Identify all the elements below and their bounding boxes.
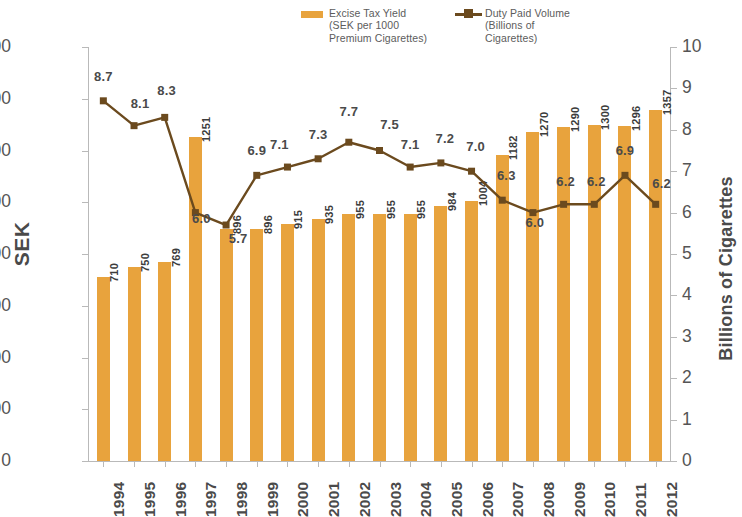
x-axis-tick-label: 2003	[387, 457, 405, 517]
y-axis-right-tick	[671, 420, 677, 421]
line-marker	[253, 172, 260, 179]
line-marker	[499, 197, 506, 204]
x-axis-tick	[441, 462, 442, 467]
legend-item-duty-paid-volume: Duty Paid Volume (Billions of Cigarettes…	[455, 7, 570, 44]
x-axis-tick	[195, 462, 196, 467]
line-point-value-label: 7.5	[373, 117, 407, 132]
x-axis-tick	[472, 462, 473, 467]
x-axis-tick-label: 2008	[540, 457, 558, 517]
x-axis-tick-label: 2006	[479, 457, 497, 517]
legend-item-label: Duty Paid Volume (Billions of Cigarettes…	[485, 7, 570, 44]
line-marker	[315, 155, 322, 162]
x-axis-tick	[410, 462, 411, 467]
line-marker	[284, 164, 291, 171]
x-axis-tick-label: 1995	[141, 457, 159, 517]
y-axis-right-tick	[671, 130, 677, 131]
legend-item-label: Excise Tax Yield (SEK per 1000 Premium C…	[329, 7, 427, 44]
y-axis-left-tick-label: 0	[0, 450, 11, 471]
x-axis-tick	[594, 462, 595, 467]
x-axis-tick	[502, 462, 503, 467]
x-axis-tick	[625, 462, 626, 467]
line-marker	[131, 122, 138, 129]
x-axis-tick	[656, 462, 657, 467]
y-axis-right-tick	[671, 337, 677, 338]
x-axis-tick	[287, 462, 288, 467]
x-axis-tick	[380, 462, 381, 467]
x-axis-tick	[349, 462, 350, 467]
x-axis-tick	[165, 462, 166, 467]
y-axis-left-tick-label: 1600	[0, 36, 11, 57]
y-axis-right-tick-label: 7	[682, 160, 712, 181]
x-axis-tick-label: 2000	[294, 457, 312, 517]
y-axis-right-tick-label: 4	[682, 284, 712, 305]
line-marker	[560, 201, 567, 208]
line-marker	[652, 201, 659, 208]
x-axis-tick	[103, 462, 104, 467]
x-axis-tick-label: 2004	[417, 457, 435, 517]
y-axis-left-tick-label: 1400	[0, 88, 11, 109]
y-axis-right-tick	[671, 254, 677, 255]
line-point-value-label: 8.7	[86, 69, 120, 84]
x-axis-tick	[318, 462, 319, 467]
line-point-value-label: 6.3	[489, 168, 523, 183]
line-point-value-label: 7.3	[301, 127, 335, 142]
x-axis-tick-label: 2012	[663, 457, 681, 517]
line-point-value-label: 6.2	[579, 174, 613, 189]
y-axis-right-tick-label: 1	[682, 409, 712, 430]
line-point-value-label: 6.2	[549, 174, 583, 189]
line-marker	[223, 222, 230, 229]
line-point-value-label: 7.7	[332, 104, 366, 119]
line-marker	[100, 97, 107, 104]
y-axis-left-title: SEK	[10, 204, 34, 284]
x-axis-tick	[134, 462, 135, 467]
line-marker	[376, 147, 383, 154]
legend-bar-swatch-icon	[299, 7, 329, 21]
chart-legend: Excise Tax Yield (SEK per 1000 Premium C…	[0, 0, 742, 46]
line-point-value-label: 6.0	[518, 215, 552, 230]
x-axis-tick-label: 2010	[601, 457, 619, 517]
line-point-value-label: 7.1	[393, 137, 427, 152]
legend-line-swatch-icon	[455, 7, 485, 21]
line-marker	[621, 172, 628, 179]
y-axis-left-tick-label: 600	[0, 295, 11, 316]
line-point-value-label: 7.1	[262, 137, 296, 152]
y-axis-right-tick	[671, 171, 677, 172]
line-point-value-label: 7.0	[459, 139, 493, 154]
line-point-value-label: 8.3	[150, 83, 184, 98]
x-axis-tick-label: 1996	[172, 457, 190, 517]
y-axis-right-tick-label: 9	[682, 77, 712, 98]
y-axis-left-tick-label: 1200	[0, 140, 11, 161]
y-axis-right-tick-label: 6	[682, 202, 712, 223]
line-point-value-label: 6.0	[184, 211, 218, 226]
y-axis-right-tick-label: 2	[682, 367, 712, 388]
line-point-value-label: 6.9	[608, 143, 642, 158]
y-axis-right-tick	[671, 378, 677, 379]
plot-area: 16001400120010008006004002000 1098765432…	[88, 47, 671, 462]
line-marker	[161, 114, 168, 121]
line-point-value-label: 7.2	[428, 131, 462, 146]
y-axis-left-tick-label: 800	[0, 243, 11, 264]
x-axis-tick	[564, 462, 565, 467]
y-axis-right-tick	[671, 47, 677, 48]
y-axis-right-tick-label: 0	[682, 450, 712, 471]
line-point-value-label: 6.2	[645, 176, 679, 191]
line-point-value-label: 5.7	[221, 231, 255, 246]
y-axis-right-tick	[671, 213, 677, 214]
legend-item-excise-tax-yield: Excise Tax Yield (SEK per 1000 Premium C…	[299, 7, 427, 44]
y-axis-left-tick-label: 200	[0, 398, 11, 419]
x-axis-tick-label: 1999	[264, 457, 282, 517]
x-axis-tick-label: 2011	[632, 457, 650, 517]
x-axis-tick-label: 1994	[110, 457, 128, 517]
y-axis-right-tick-label: 10	[682, 36, 712, 57]
x-axis-tick-label: 1998	[233, 457, 251, 517]
y-axis-right-title: Billions of Cigarettes	[716, 119, 737, 419]
x-axis-tick-label: 2009	[571, 457, 589, 517]
x-axis-tick-label: 2005	[448, 457, 466, 517]
y-axis-right-tick-label: 5	[682, 243, 712, 264]
line-marker	[407, 164, 414, 171]
line-series-layer	[88, 47, 671, 462]
y-axis-right-tick	[671, 295, 677, 296]
y-axis-right-tick-label: 8	[682, 119, 712, 140]
x-axis-tick-label: 2002	[356, 457, 374, 517]
line-marker	[468, 168, 475, 175]
